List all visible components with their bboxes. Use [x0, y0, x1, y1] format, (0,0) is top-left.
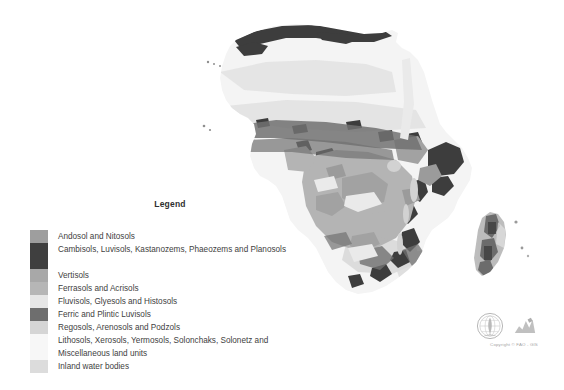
legend-item: Ferrasols and Acrisols — [30, 282, 310, 295]
legend-label-vertisols: Vertisols — [58, 269, 310, 282]
legend-item: Vertisols — [30, 269, 310, 282]
legend-label-ferrasols-acrisols: Ferrasols and Acrisols — [58, 282, 310, 295]
legend-swatch-ferrasols-acrisols — [30, 282, 48, 295]
legend-label-fluvisols-glyesols: Fluvisols, Glyesols and Histosols — [58, 295, 310, 308]
legend-swatch-cambisols-luvisols — [30, 243, 48, 269]
legend-label-lithosols-xerosols: Lithosols, Xerosols, Yermosols, Soloncha… — [58, 334, 310, 360]
legend-item: Ferric and Plintic Luvisols — [30, 308, 310, 321]
fao-copyright-text: Copyright © FAO - GIS — [472, 342, 556, 347]
legend-label-inland-water-bodies: Inland water bodies — [58, 360, 310, 373]
legend-item: Andosol and Nitosols — [30, 230, 310, 243]
legend-title: Legend — [0, 199, 340, 209]
legend-item: Fluvisols, Glyesols and Histosols — [30, 295, 310, 308]
legend-item: Inland water bodies — [30, 360, 310, 373]
legend-item: Cambisols, Luvisols, Kastanozems, Phaeoz… — [30, 243, 310, 269]
legend-swatch-ferric-plintic-luvisols — [30, 308, 48, 321]
legend-item: Lithosols, Xerosols, Yermosols, Soloncha… — [30, 334, 310, 360]
legend-swatch-fluvisols-glyesols — [30, 295, 48, 308]
legend-swatch-lithosols-xerosols — [30, 334, 48, 360]
fao-secondary-mark-icon — [512, 316, 538, 338]
legend-label-regosols-arenosols: Regosols, Arenosols and Podzols — [58, 321, 310, 334]
soil-map-figure: Legend Andosol and Nitosols Cambisols, L… — [0, 0, 564, 390]
legend-item-list: Andosol and Nitosols Cambisols, Luvisols… — [30, 230, 310, 373]
legend-label-ferric-plintic-luvisols: Ferric and Plintic Luvisols — [58, 308, 310, 321]
legend-swatch-andosol-nitosols — [30, 230, 48, 243]
fao-emblem-icon — [476, 312, 504, 340]
legend-label-andosol-nitosols: Andosol and Nitosols — [58, 230, 310, 243]
legend-swatch-regosols-arenosols — [30, 321, 48, 334]
legend: Legend Andosol and Nitosols Cambisols, L… — [0, 196, 310, 390]
fao-credit-block: Copyright © FAO - GIS — [472, 310, 556, 360]
legend-swatch-vertisols — [30, 269, 48, 282]
legend-swatch-inland-water-bodies — [30, 360, 48, 373]
legend-item: Regosols, Arenosols and Podzols — [30, 321, 310, 334]
legend-label-cambisols-luvisols: Cambisols, Luvisols, Kastanozems, Phaeoz… — [58, 243, 310, 256]
